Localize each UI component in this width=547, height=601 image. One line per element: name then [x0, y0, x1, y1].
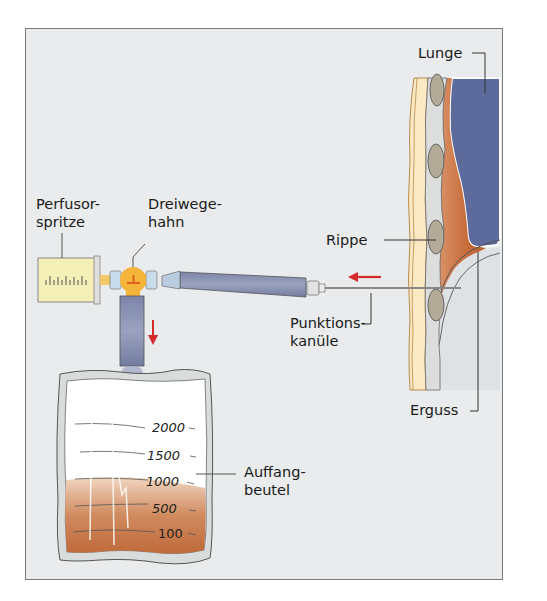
- label-dreiwege-line1: Dreiwege-: [148, 196, 222, 213]
- three-way-stopcock: [100, 244, 157, 296]
- label-auffang-line1: Auffang-: [244, 464, 306, 481]
- label-erguss: Erguss: [410, 402, 458, 419]
- bag-scale-2000: 2000: [152, 421, 185, 435]
- bag-scale-1500: 1500: [147, 449, 180, 463]
- syringe: [38, 233, 100, 304]
- label-auffang-line2: beutel: [244, 482, 290, 499]
- flow-arrow-down: [148, 320, 158, 345]
- drainage-tube: [162, 271, 306, 297]
- rib-3: [428, 220, 444, 254]
- label-punktion-line2: kanüle: [290, 333, 338, 350]
- bag-scale-500: 500: [152, 502, 177, 516]
- label-perfusor-line1: Perfusor-: [36, 196, 100, 213]
- rib-1: [430, 74, 444, 106]
- rib-4: [428, 289, 444, 321]
- thoracentesis-illustration: [0, 0, 547, 601]
- rib-2: [428, 144, 444, 178]
- label-lunge: Lunge: [418, 45, 462, 62]
- flow-arrow-left: [348, 272, 381, 282]
- bag-scale-1000: 1000: [146, 475, 179, 489]
- label-punktion-line1: Punktions-: [290, 315, 366, 332]
- label-dreiwege-line2: hahn: [148, 214, 184, 231]
- bag-scale-100: 100: [158, 527, 183, 541]
- label-rippe: Rippe: [326, 232, 367, 249]
- label-perfusor-line2: spritze: [36, 214, 85, 231]
- collection-bag: [57, 370, 236, 564]
